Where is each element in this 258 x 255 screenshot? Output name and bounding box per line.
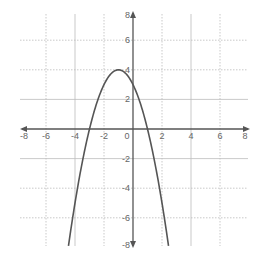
x-tick-label: -2 bbox=[100, 131, 108, 141]
x-tick-label: 0 bbox=[124, 131, 129, 141]
parabola-chart: -8-6-4-202468 -8-6-4-22468 bbox=[0, 0, 258, 255]
y-tick-label: -4 bbox=[122, 183, 130, 193]
y-tick-label: 2 bbox=[125, 94, 130, 104]
x-tick-labels: -8-6-4-202468 bbox=[20, 131, 248, 141]
y-tick-label: -8 bbox=[122, 240, 130, 250]
y-tick-label: -6 bbox=[122, 213, 130, 223]
parabola-curve bbox=[68, 70, 168, 246]
y-tick-label: -2 bbox=[122, 154, 130, 164]
y-tick-labels: -8-6-4-22468 bbox=[122, 10, 130, 250]
x-tick-label: -4 bbox=[71, 131, 79, 141]
x-tick-label: 4 bbox=[188, 131, 193, 141]
x-tick-label: 6 bbox=[217, 131, 222, 141]
x-tick-label: -8 bbox=[20, 131, 28, 141]
y-tick-label: 6 bbox=[125, 35, 130, 45]
y-axis-bottom-arrow-icon bbox=[130, 241, 136, 248]
x-tick-label: 2 bbox=[159, 131, 164, 141]
y-tick-label: 8 bbox=[125, 10, 130, 20]
x-tick-label: 8 bbox=[242, 131, 247, 141]
x-tick-label: -6 bbox=[42, 131, 50, 141]
grid-lines bbox=[20, 14, 248, 246]
y-axis-top-arrow-icon bbox=[130, 11, 136, 18]
axes bbox=[20, 11, 250, 248]
